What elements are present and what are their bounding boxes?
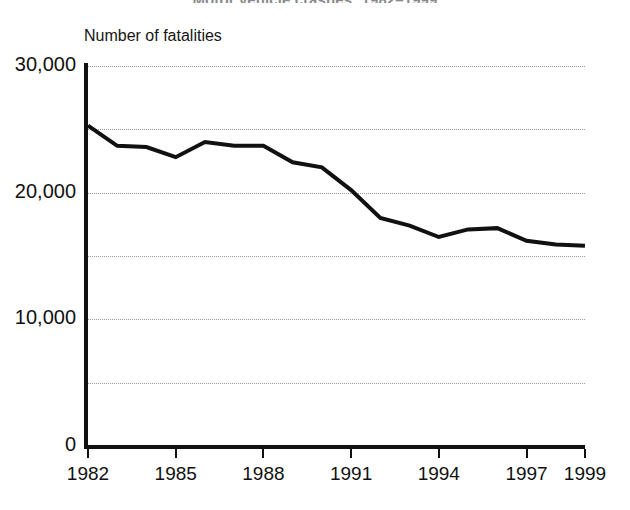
- x-tick-label: 1994: [418, 463, 460, 485]
- x-tick-mark: [262, 449, 264, 458]
- x-tick-mark: [526, 449, 528, 458]
- y-tick-label-text: 30,000: [15, 53, 76, 76]
- x-tick-label: 1997: [505, 463, 547, 485]
- y-tick-label-text: 10,000: [15, 306, 76, 329]
- x-tick-label: 1991: [330, 463, 372, 485]
- x-tick-mark: [584, 449, 586, 458]
- x-tick-mark: [438, 449, 440, 458]
- x-tick-mark: [87, 449, 89, 458]
- x-tick-mark: [350, 449, 352, 458]
- data-series-line: [0, 0, 630, 510]
- x-tick-label: 1988: [242, 463, 284, 485]
- x-tick-label: 1999: [564, 463, 606, 485]
- chart-figure: Motor vehicle crashes: 1982–1999 Number …: [0, 0, 630, 510]
- x-tick-label: 1985: [155, 463, 197, 485]
- x-tick-label: 1982: [67, 463, 109, 485]
- y-tick-label-text: 20,000: [15, 180, 76, 203]
- y-tick-label-text: 0: [65, 433, 76, 456]
- x-tick-mark: [175, 449, 177, 458]
